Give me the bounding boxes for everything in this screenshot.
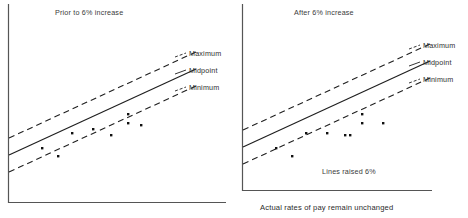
legend-label-minimum-prior: Minimum <box>189 83 219 92</box>
panel-title-after: After 6% increase <box>294 8 354 17</box>
axis-lines-after <box>243 4 433 191</box>
legend-label-midpoint-prior: Midpoint <box>189 66 218 75</box>
chart-panel-after: After 6% increase Maximum Midpoint Minim… <box>234 0 468 218</box>
data-points-after <box>275 113 384 157</box>
chart-panel-prior: Prior to 6% increase Maximum Midpoint Mi… <box>0 0 234 218</box>
series-minimum-prior <box>9 86 196 172</box>
legend-leaders-after <box>409 45 420 83</box>
figure-caption: Actual rates of pay remain unchanged <box>260 203 393 212</box>
legend-label-maximum-prior: Maximum <box>189 49 221 58</box>
series-minimum-after <box>243 78 430 164</box>
legend-label-minimum-after: Minimum <box>423 75 453 84</box>
legend-label-maximum-after: Maximum <box>423 41 455 50</box>
axis-lines-prior <box>9 4 227 203</box>
series-midpoint-after <box>243 61 430 147</box>
chart-plot-prior <box>0 0 234 218</box>
note-lines-raised: Lines raised 6% <box>322 167 376 176</box>
salary-structure-figure: Prior to 6% increase Maximum Midpoint Mi… <box>0 0 468 218</box>
legend-label-midpoint-after: Midpoint <box>423 58 452 67</box>
series-maximum-after <box>243 44 430 130</box>
series-maximum-prior <box>9 52 196 138</box>
series-midpoint-prior <box>9 69 196 155</box>
panel-title-prior: Prior to 6% increase <box>55 8 123 17</box>
legend-leaders-prior <box>175 53 186 91</box>
chart-plot-after <box>234 0 468 218</box>
